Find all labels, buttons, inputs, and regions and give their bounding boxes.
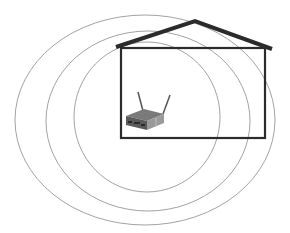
diagram-canvas: Wireless router signal coverage of a hou… (0, 0, 290, 233)
router-icon (126, 92, 170, 130)
house-roof (116, 21, 272, 49)
diagram-svg (0, 0, 290, 233)
